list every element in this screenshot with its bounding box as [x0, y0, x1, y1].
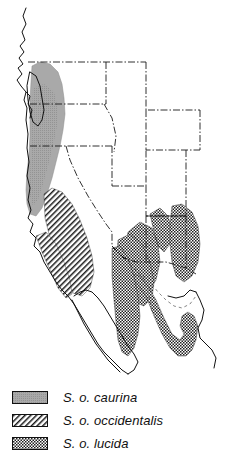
- legend-item-occidentalis: S. o. occidentalis: [12, 409, 232, 432]
- legend-label-lucida: S. o. lucida: [63, 436, 129, 451]
- legend-item-lucida: S. o. lucida: [12, 432, 232, 455]
- range-occidentalis: [36, 188, 94, 298]
- legend-label-occidentalis: S. o. occidentalis: [63, 413, 163, 428]
- map-svg: [0, 0, 248, 378]
- legend-item-caurina: S. o. caurina: [12, 386, 232, 409]
- occidentalis-swatch: [12, 414, 48, 427]
- range-map-figure: S. o. caurina S. o. occidentalis: [0, 0, 248, 465]
- legend-label-caurina: S. o. caurina: [63, 390, 137, 405]
- caurina-swatch: [12, 391, 48, 404]
- subspecies-legend: S. o. caurina S. o. occidentalis: [12, 386, 232, 455]
- lucida-swatch: [12, 437, 48, 450]
- map-area: [0, 0, 248, 378]
- range-lucida: [112, 204, 200, 356]
